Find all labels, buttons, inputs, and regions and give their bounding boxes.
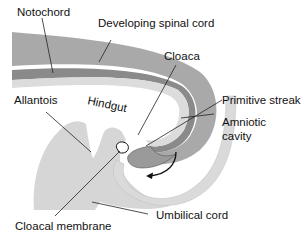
label-allantois: Allantois (14, 94, 58, 106)
label-amniotic: Amniotic (222, 116, 266, 128)
label-cavity: cavity (222, 130, 252, 142)
label-notochord: Notochord (17, 6, 70, 18)
label-hindgut: Hindgut (87, 94, 129, 114)
label-cloaca: Cloaca (164, 50, 200, 62)
label-developing-spinal-cord: Developing spinal cord (98, 17, 214, 29)
label-primitive-streak: Primitive streak (222, 94, 301, 106)
label-cloacal-membrane: Cloacal membrane (15, 220, 112, 232)
arrowhead-icon (146, 173, 153, 180)
hindgut-diagram: Notochord Developing spinal cord Cloaca … (0, 0, 308, 238)
cloacal-membrane (116, 142, 128, 153)
label-umbilical-cord: Umbilical cord (156, 209, 228, 221)
